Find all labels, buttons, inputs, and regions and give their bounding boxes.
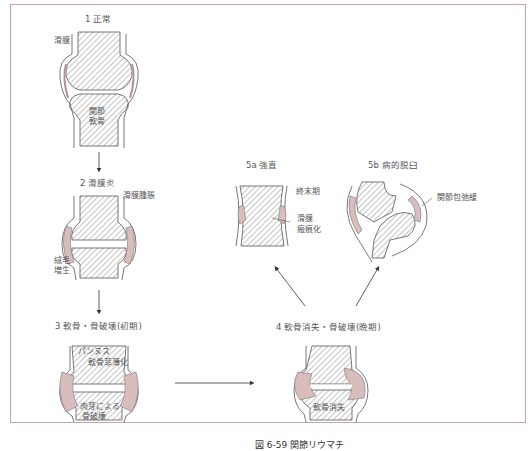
stage-5b-pathologic-dislocation xyxy=(347,182,432,262)
stage-5a-title: 5a 強直 xyxy=(246,161,277,171)
label-synovial-scar-2: 瘢痕化 xyxy=(297,225,321,234)
stage-2-synovitis xyxy=(62,196,136,280)
label-synovial-swelling: 滑膜腫脹 xyxy=(123,191,155,200)
label-granulation-1: 肉芽による xyxy=(80,402,120,411)
stage-5a-ankylosis xyxy=(236,186,290,246)
stage-4-title: 4 軟骨消失・骨破壊(晩期) xyxy=(276,323,381,333)
arrow-4-to-5a xyxy=(276,268,305,306)
label-villous-1: 絨毛 xyxy=(54,256,70,265)
label-villous-2: 増生 xyxy=(54,266,70,275)
label-synovium: 滑膜 xyxy=(54,36,70,45)
label-capsule-laxity: 関節包弛緩 xyxy=(437,193,477,202)
stage-3-title: 3 軟骨・骨破壊(初期) xyxy=(55,322,142,332)
arrow-4-to-5b xyxy=(356,268,378,306)
label-granulation-2: 骨破壊 xyxy=(82,412,106,421)
label-articular-cartilage-1: 関節 xyxy=(89,107,105,116)
stage-5b-title: 5b 病的脱臼 xyxy=(368,161,418,171)
figure-caption: 図 6-59 関節リウマチ xyxy=(255,438,344,451)
label-synovial-scar-1: 滑膜 xyxy=(297,214,313,223)
stage-1-title: 1 正常 xyxy=(85,15,111,25)
label-cartilage-thinning: 軟骨菲薄化 xyxy=(88,358,128,367)
label-cartilage-loss: 軟骨消失 xyxy=(313,403,345,412)
label-articular-cartilage-2: 軟骨 xyxy=(89,117,105,126)
stage-2-title: 2 滑膜炎 xyxy=(80,179,115,189)
label-end-stage: 終末期 xyxy=(296,187,320,196)
label-pannus: パンヌス xyxy=(78,347,110,356)
stage-1-normal-joint xyxy=(60,32,139,148)
